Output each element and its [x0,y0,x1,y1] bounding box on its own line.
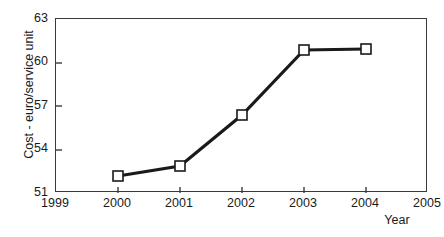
x-tick-label-1999: 1999 [25,197,85,210]
x-tick-label-2000: 2000 [87,197,147,210]
plot-svg [56,19,428,193]
x-tick-label-2001: 2001 [149,197,209,210]
data-point-2000 [113,171,123,181]
x-tick-marks [118,187,366,193]
data-point-2001 [175,161,185,171]
data-point-2003 [299,45,309,55]
x-axis-title: Year [367,214,427,227]
chart-figure: 63 60 57 54 51 Cost - euro/service unit [0,0,444,237]
x-tick-label-2002: 2002 [211,197,271,210]
x-tick-label-2005: 2005 [397,197,444,210]
plot-area [55,18,427,192]
data-point-2002 [237,110,247,120]
clipped-chart-title [96,0,326,3]
x-tick-label-2003: 2003 [273,197,333,210]
data-markers [113,44,371,181]
x-tick-label-2004: 2004 [335,197,395,210]
data-point-2004 [361,44,371,54]
y-tick-marks [56,63,62,150]
y-axis-title: Cost - euro/service unit [23,15,36,175]
